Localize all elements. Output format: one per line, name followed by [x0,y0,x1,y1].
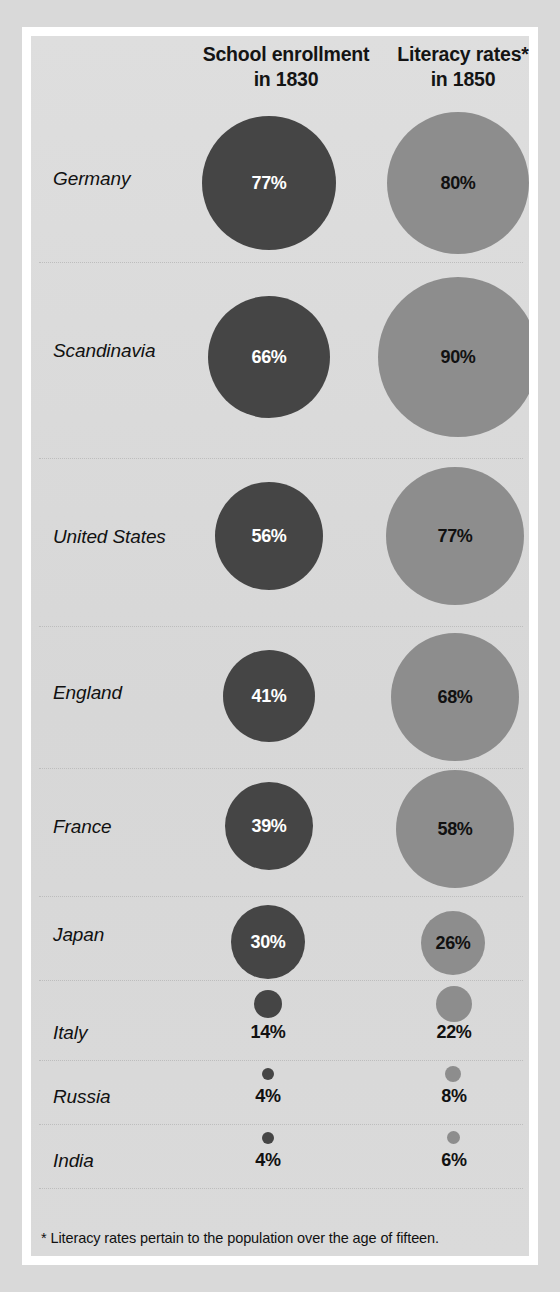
table-row: Italy 14% 22% [31,980,529,1060]
bubble-literacy-india[interactable] [447,1131,460,1144]
bubble-enrollment-scandinavia[interactable]: 66% [208,296,330,418]
value-literacy-india: 6% [394,1150,514,1171]
bubble-enrollment-japan[interactable]: 30% [231,905,305,979]
row-separator [39,1188,523,1189]
row-separator [39,1060,523,1061]
table-row: United States 56% 77% [31,458,529,626]
row-label-germany: Germany [53,168,130,190]
bubble-literacy-germany[interactable]: 80% [387,112,529,254]
column-header-enrollment-line1: School enrollment [203,43,370,65]
table-row: Japan 30% 26% [31,896,529,980]
row-separator [39,896,523,897]
bubble-literacy-italy[interactable] [436,986,472,1022]
row-label-united-states: United States [53,526,166,548]
row-label-scandinavia: Scandinavia [53,340,155,362]
row-label-italy: Italy [53,1022,87,1044]
row-separator [39,458,523,459]
table-row: France 39% 58% [31,768,529,896]
chart-panel: School enrollment in 1830 Literacy rates… [31,36,529,1256]
table-row: Germany 77% 80% [31,110,529,262]
row-label-japan: Japan [53,924,104,946]
table-row: England 41% 68% [31,626,529,768]
row-label-england: England [53,682,122,704]
bubble-enrollment-england[interactable]: 41% [223,650,315,742]
bubble-literacy-japan[interactable]: 26% [421,911,485,975]
row-separator [39,980,523,981]
row-label-india: India [53,1150,94,1172]
row-separator [39,262,523,263]
row-separator [39,626,523,627]
bubble-literacy-france[interactable]: 58% [396,770,514,888]
column-header-literacy: Literacy rates* in 1850 [379,42,529,92]
chart-frame: School enrollment in 1830 Literacy rates… [22,27,538,1265]
value-enrollment-india: 4% [208,1150,328,1171]
column-headers: School enrollment in 1830 Literacy rates… [31,36,529,110]
table-row: Russia 4% 8% [31,1060,529,1124]
table-row: Scandinavia 66% 90% [31,262,529,458]
bubble-enrollment-india[interactable] [262,1132,274,1144]
bubble-literacy-england[interactable]: 68% [391,633,519,761]
bubble-enrollment-germany[interactable]: 77% [202,116,336,250]
bubble-literacy-united-states[interactable]: 77% [386,467,524,605]
footnote: * Literacy rates pertain to the populati… [41,1230,439,1246]
column-header-literacy-line2: in 1850 [379,67,529,92]
bubble-enrollment-united-states[interactable]: 56% [215,482,323,590]
column-header-literacy-line1: Literacy rates* [397,43,528,65]
bubble-enrollment-italy[interactable] [254,990,282,1018]
value-enrollment-italy: 14% [208,1022,328,1043]
row-separator [39,1124,523,1125]
row-separator [39,768,523,769]
column-header-enrollment-line2: in 1830 [181,67,391,92]
value-literacy-russia: 8% [394,1086,514,1107]
bubble-literacy-russia[interactable] [445,1066,461,1082]
row-label-russia: Russia [53,1086,110,1108]
footnote-separator-row [31,1188,529,1189]
bubble-enrollment-france[interactable]: 39% [225,782,313,870]
value-enrollment-russia: 4% [208,1086,328,1107]
row-label-france: France [53,816,112,838]
bubble-literacy-scandinavia[interactable]: 90% [378,277,529,437]
table-row: India 4% 6% [31,1124,529,1188]
value-literacy-italy: 22% [394,1022,514,1043]
bubble-enrollment-russia[interactable] [262,1068,274,1080]
column-header-enrollment: School enrollment in 1830 [181,42,391,92]
